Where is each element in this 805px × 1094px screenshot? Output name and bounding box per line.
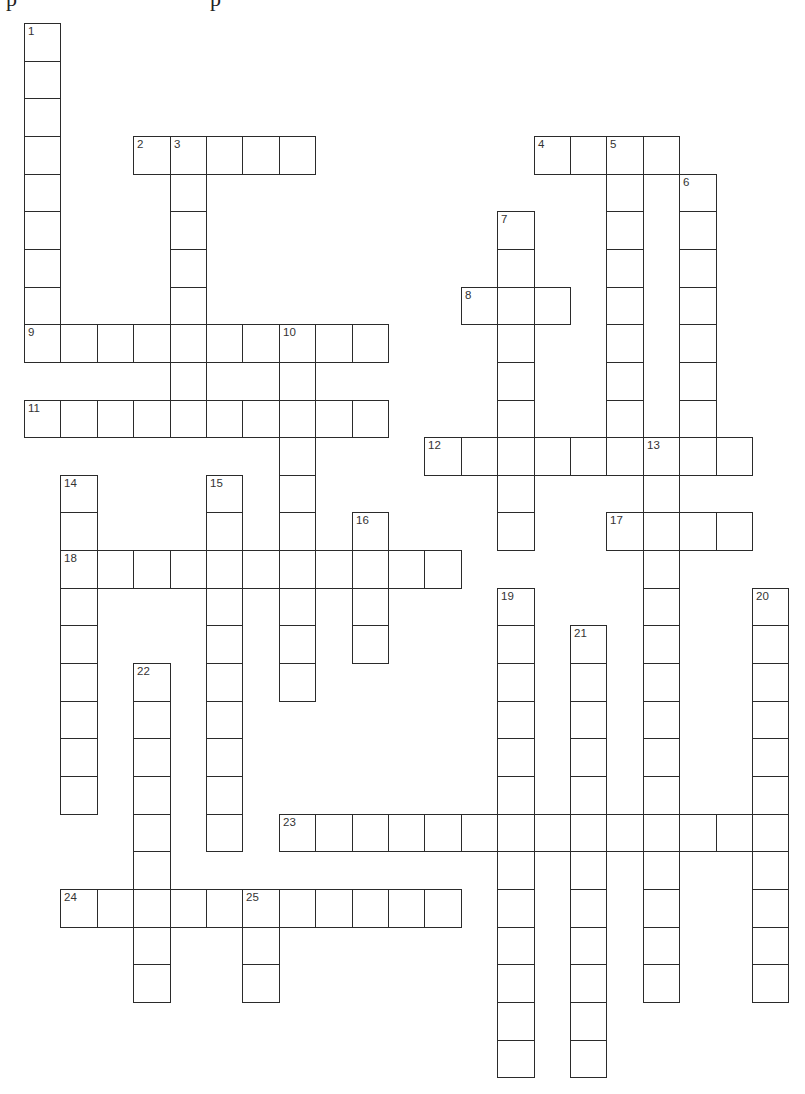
crossword-cell[interactable]: 11 [24,400,61,438]
letter-input[interactable] [61,589,97,625]
crossword-cell[interactable] [352,889,389,928]
crossword-cell[interactable] [24,98,61,137]
letter-input[interactable] [498,401,534,437]
letter-input[interactable] [535,438,570,475]
crossword-cell[interactable] [60,625,98,664]
letter-input[interactable] [134,890,170,927]
letter-input[interactable] [134,401,170,437]
letter-input[interactable] [607,212,643,249]
letter-input[interactable] [207,815,242,851]
letter-input[interactable] [607,815,643,851]
crossword-cell[interactable] [315,814,353,852]
crossword-cell[interactable] [133,400,171,438]
letter-input[interactable] [753,815,788,851]
letter-input[interactable] [607,438,643,475]
crossword-cell[interactable]: 17 [606,512,644,551]
letter-input[interactable] [644,137,679,174]
letter-input[interactable] [571,777,606,814]
crossword-cell[interactable]: 23 [279,814,316,852]
letter-input[interactable] [644,513,679,550]
crossword-cell[interactable] [679,400,717,438]
letter-input[interactable] [353,325,388,362]
crossword-cell[interactable] [279,362,316,401]
crossword-cell[interactable] [133,889,171,928]
letter-input[interactable] [207,589,242,625]
letter-input[interactable] [171,250,206,287]
crossword-cell[interactable] [497,889,535,928]
crossword-cell[interactable] [606,287,644,325]
letter-input[interactable] [644,739,679,776]
letter-input[interactable] [61,476,97,512]
letter-input[interactable] [207,739,242,776]
crossword-cell[interactable]: 13 [643,437,680,476]
letter-input[interactable] [98,325,133,362]
letter-input[interactable] [753,965,788,1002]
crossword-cell[interactable] [206,550,243,589]
crossword-cell[interactable] [497,475,535,513]
crossword-cell[interactable] [206,625,243,664]
letter-input[interactable] [25,325,60,362]
crossword-cell[interactable] [133,814,171,852]
letter-input[interactable] [644,664,679,701]
letter-input[interactable] [607,137,643,174]
crossword-cell[interactable] [133,776,171,815]
crossword-cell[interactable] [643,851,680,890]
letter-input[interactable] [25,288,60,324]
letter-input[interactable] [61,890,97,927]
letter-input[interactable] [498,513,534,550]
crossword-cell[interactable] [60,588,98,626]
crossword-cell[interactable] [497,964,535,1003]
crossword-cell[interactable] [170,211,207,250]
letter-input[interactable] [280,325,315,362]
crossword-cell[interactable] [606,362,644,401]
letter-input[interactable] [207,401,242,437]
crossword-cell[interactable] [206,738,243,777]
letter-input[interactable] [680,212,716,249]
crossword-cell[interactable] [279,475,316,513]
letter-input[interactable] [607,250,643,287]
crossword-cell[interactable] [606,174,644,212]
letter-input[interactable] [134,325,170,362]
crossword-cell[interactable] [133,927,171,965]
letter-input[interactable] [571,438,606,475]
crossword-cell[interactable] [170,174,207,212]
letter-input[interactable] [171,401,206,437]
letter-input[interactable] [753,664,788,701]
crossword-cell[interactable] [570,889,607,928]
letter-input[interactable] [207,626,242,663]
crossword-cell[interactable] [570,701,607,739]
letter-input[interactable] [680,325,716,362]
crossword-cell[interactable] [679,437,717,476]
letter-input[interactable] [680,363,716,400]
letter-input[interactable] [498,702,534,738]
letter-input[interactable] [571,137,606,174]
crossword-cell[interactable] [570,964,607,1003]
crossword-cell[interactable] [133,324,171,363]
letter-input[interactable] [61,739,97,776]
crossword-cell[interactable] [679,249,717,288]
crossword-cell[interactable] [170,889,207,928]
letter-input[interactable] [753,589,788,625]
letter-input[interactable] [389,815,424,851]
crossword-cell[interactable] [315,324,353,363]
crossword-cell[interactable] [497,362,535,401]
crossword-cell[interactable] [570,851,607,890]
crossword-cell[interactable]: 14 [60,475,98,513]
letter-input[interactable] [680,175,716,211]
crossword-cell[interactable] [461,437,498,476]
letter-input[interactable] [753,739,788,776]
crossword-cell[interactable] [643,550,680,589]
letter-input[interactable] [171,288,206,324]
letter-input[interactable] [462,438,497,475]
crossword-cell[interactable]: 4 [534,136,571,175]
crossword-cell[interactable] [97,324,134,363]
crossword-cell[interactable] [242,550,280,589]
crossword-cell[interactable] [24,61,61,99]
crossword-cell[interactable] [679,211,717,250]
letter-input[interactable] [353,401,388,437]
crossword-cell[interactable] [315,400,353,438]
letter-input[interactable] [134,777,170,814]
letter-input[interactable] [498,777,534,814]
crossword-cell[interactable] [133,964,171,1003]
crossword-cell[interactable] [97,400,134,438]
